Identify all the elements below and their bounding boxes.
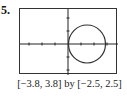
- window-caption: [−3.8, 3.8] by [−2.5, 2.5]: [12, 78, 127, 89]
- problem-number: 5.: [1, 3, 10, 18]
- plot-svg: [20, 9, 118, 75]
- graph-window: [19, 8, 117, 74]
